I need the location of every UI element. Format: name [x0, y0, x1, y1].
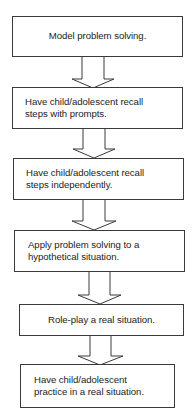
step-label: Apply problem solving to a hypothetical …	[28, 239, 139, 264]
down-arrow-icon	[72, 56, 114, 88]
step-label: Role-play a real situation.	[48, 314, 155, 327]
flow-step-model-problem-solving: Model problem solving.	[12, 16, 183, 57]
down-arrow-icon	[73, 128, 115, 158]
down-arrow-icon	[78, 271, 121, 304]
step-label: Model problem solving.	[49, 30, 147, 43]
step-label: Have child/adolescent recall steps indep…	[26, 167, 144, 192]
flow-connectors	[0, 0, 193, 419]
step-label: Have child/adolescent recall steps with …	[25, 96, 143, 121]
down-arrow-icon	[72, 199, 116, 230]
down-arrow-icon	[78, 335, 123, 365]
flow-step-role-play: Role-play a real situation.	[19, 304, 184, 336]
flow-step-hypothetical-situation: Apply problem solving to a hypothetical …	[14, 230, 185, 272]
flow-step-recall-with-prompts: Have child/adolescent recall steps with …	[12, 87, 183, 129]
step-label: Have child/adolescent practice in a real…	[34, 374, 144, 399]
flow-step-recall-independently: Have child/adolescent recall steps indep…	[13, 158, 184, 200]
flow-step-practice-real-situation: Have child/adolescent practice in a real…	[20, 364, 175, 408]
